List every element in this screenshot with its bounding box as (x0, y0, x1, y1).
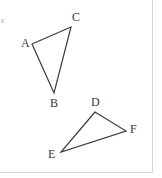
vertex-label-d: D (91, 96, 100, 108)
vertex-label-e: E (48, 148, 55, 160)
vertex-label-c: C (72, 11, 80, 23)
triangles-drawing (0, 0, 162, 178)
geometry-figure: A B C D E F (0, 0, 162, 178)
triangle-abc-path (32, 27, 71, 93)
scan-artifact-mark (1, 19, 4, 23)
vertex-label-b: B (50, 97, 58, 109)
vertex-label-f: F (130, 123, 137, 135)
triangle-def-shape (61, 112, 126, 152)
page-border-bottom (0, 172, 153, 173)
page-border-right (152, 0, 153, 172)
triangle-def-path (61, 112, 126, 152)
vertex-label-a: A (21, 37, 30, 49)
triangle-abc-shape (32, 27, 71, 93)
